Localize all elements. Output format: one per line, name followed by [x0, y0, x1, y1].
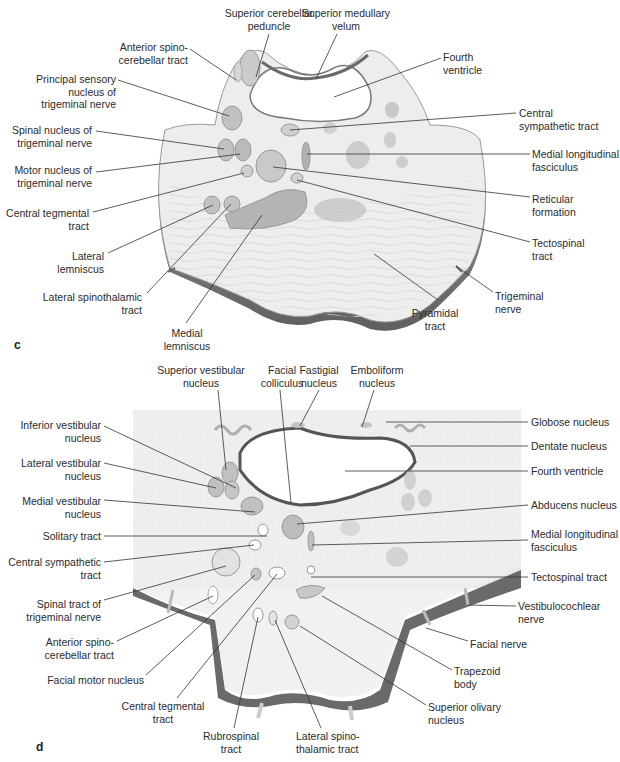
label-tectospinal-tract: Tectospinal tract	[532, 237, 602, 262]
label-medial-vestibular-nucleus: Medial vestibular nucleus	[10, 495, 101, 520]
label-reticular-formation: Reticular formation	[532, 193, 602, 218]
label-dentate-nucleus: Dentate nucleus	[531, 440, 619, 453]
label-spinal-tract-trigeminal: Spinal tract of trigeminal nerve	[10, 598, 101, 623]
label-motor-nucleus-trigeminal: Motor nucleus of trigeminal nerve	[10, 164, 92, 189]
label-lateral-spinothalamic-tract: Lateral spinothalamic tract	[30, 291, 142, 316]
label-lateral-spinothalamic-tract-d: Lateral spino- thalamic tract	[296, 730, 376, 755]
label-superior-olivary-nucleus: Superior olivary nucleus	[428, 701, 512, 726]
label-trapezoid-body: Trapezoid body	[454, 665, 514, 690]
label-inferior-vestibular-nucleus: Inferior vestibular nucleus	[10, 419, 101, 444]
label-facial-nerve: Facial nerve	[470, 638, 540, 651]
label-tectospinal-tract-d: Tectospinal tract	[531, 571, 619, 584]
label-fourth-ventricle-d: Fourth ventricle	[531, 465, 619, 478]
label-anterior-spinocerebellar-tract-d: Anterior spino- cerebellar tract	[20, 636, 114, 661]
label-globose-nucleus: Globose nucleus	[531, 416, 619, 429]
label-central-tegmental-tract-d: Central tegmental tract	[120, 700, 206, 725]
label-central-sympathetic-tract: Central sympathetic tract	[519, 107, 619, 132]
panel-letter-d: d	[36, 740, 43, 754]
label-superior-medullary-velum: Superior medullary velum	[300, 7, 392, 32]
brainstem-cross-section-figure: Superior cerebellar peduncle Superior me…	[0, 0, 620, 762]
label-lateral-vestibular-nucleus: Lateral vestibular nucleus	[10, 457, 101, 482]
label-medial-longitudinal-fasciculus: Medial longitudinal fasciculus	[532, 148, 620, 173]
label-superior-vestibular-nucleus: Superior vestibular nucleus	[153, 364, 249, 389]
label-central-sympathetic-tract-d: Central sympathetic tract	[5, 556, 101, 581]
label-medial-lemniscus: Medial lemniscus	[155, 327, 219, 352]
label-vestibulocochlear-nerve: Vestibulocochlear nerve	[518, 600, 618, 625]
label-fourth-ventricle: Fourth ventricle	[443, 51, 503, 76]
panel-c-drawing	[159, 50, 486, 331]
label-rubrospinal-tract: Rubrospinal tract	[196, 730, 266, 755]
label-abducens-nucleus: Abducens nucleus	[531, 499, 619, 512]
label-medial-longitudinal-fasciculus-d: Medial longitudinal fasciculus	[531, 528, 619, 553]
label-spinal-nucleus-trigeminal: Spinal nucleus of trigeminal nerve	[10, 124, 92, 149]
label-lateral-lemniscus: Lateral lemniscus	[40, 250, 104, 275]
label-pyramidal-tract: Pyramidal tract	[405, 307, 465, 332]
label-fastigial-nucleus: Fastigial nucleus	[295, 364, 343, 389]
label-trigeminal-nerve: Trigeminal nerve	[495, 290, 555, 315]
label-principal-sensory-nucleus: Principal sensory nucleus of trigeminal …	[30, 73, 116, 111]
label-emboliform-nucleus: Emboliform nucleus	[345, 364, 409, 389]
label-central-tegmental-tract: Central tegmental tract	[5, 207, 89, 232]
label-solitary-tract: Solitary tract	[10, 530, 101, 543]
label-facial-motor-nucleus: Facial motor nucleus	[40, 674, 144, 687]
label-anterior-spinocerebellar-tract: Anterior spino- cerebellar tract	[108, 41, 188, 66]
panel-letter-c: c	[14, 338, 21, 352]
